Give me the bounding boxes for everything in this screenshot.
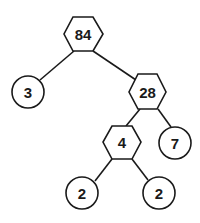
edges: [40, 51, 171, 181]
node-label-7: 7: [171, 135, 179, 152]
node-2-left: 2: [66, 177, 98, 209]
node-label-4: 4: [118, 134, 127, 151]
node-28: 28: [129, 74, 166, 109]
node-label-84: 84: [75, 26, 92, 43]
node-3: 3: [12, 76, 44, 108]
node-2-right: 2: [143, 177, 175, 209]
node-4: 4: [103, 126, 141, 159]
node-label-3: 3: [24, 84, 32, 101]
factor-tree-diagram: 84 3 28 4 7 2 2: [0, 0, 200, 223]
edge-4-2a: [95, 159, 112, 181]
node-label-28: 28: [139, 84, 156, 101]
node-84: 84: [64, 17, 103, 51]
edge-28-7: [158, 109, 171, 127]
edge-84-3: [40, 51, 74, 80]
edge-84-28: [93, 51, 136, 80]
edge-28-4: [126, 109, 140, 126]
node-label-2-left: 2: [78, 185, 86, 202]
node-label-2-right: 2: [155, 185, 163, 202]
edge-4-2b: [132, 159, 148, 180]
node-7: 7: [159, 127, 191, 159]
